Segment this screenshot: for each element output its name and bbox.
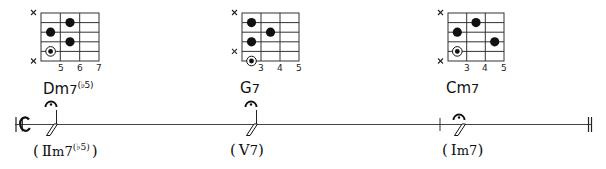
chord-root: G: [240, 79, 252, 97]
roman-suffix: m7: [457, 143, 478, 158]
roman-superscript: (♭5): [73, 142, 90, 152]
chord-root: Dm: [43, 80, 69, 98]
chord-root: Cm: [446, 79, 471, 97]
slash-notehead-icon: [455, 124, 466, 136]
staff: [15, 117, 592, 132]
chord-name-cm7: Cm7: [446, 81, 479, 96]
roman-numeral-i: (Ⅰm7): [442, 143, 483, 158]
chord-progression-diagram: 5 6 7 3 4 5 3 4 5 Dm7(♭5) G7 Cm7 (Ⅱm7(♭5…: [0, 0, 606, 169]
finger-dot-icon: [453, 28, 462, 37]
roman-degree: Ⅱ: [42, 142, 52, 160]
paren-open: (: [442, 141, 448, 159]
chord-suffix: 7: [252, 81, 260, 96]
mute-x-icon: [31, 10, 36, 15]
roman-suffix: m7: [52, 144, 73, 159]
chord-name-g7: G7: [240, 81, 260, 96]
paren-close: ): [258, 141, 264, 159]
fret-number: 4: [482, 64, 488, 73]
fret-number: 3: [258, 64, 264, 73]
chord-diagram-dm7b5: [31, 10, 99, 64]
chord-superscript: (♭5): [77, 80, 93, 90]
fret-number: 6: [77, 64, 83, 73]
mute-x-icon: [438, 59, 443, 64]
paren-open: (: [33, 142, 39, 160]
finger-dot-icon: [65, 37, 74, 46]
mute-x-icon: [232, 10, 237, 15]
mute-marks: [31, 10, 36, 64]
finger-dot-icon: [46, 28, 55, 37]
roman-suffix: 7: [250, 143, 258, 158]
fret-number: 3: [464, 64, 470, 73]
paren-open: (: [230, 141, 236, 159]
roman-degree: Ⅴ: [239, 141, 250, 159]
fret-number: 4: [277, 64, 283, 73]
root-note-icon: [247, 56, 257, 66]
paren-close: ): [92, 142, 98, 160]
roman-numeral-ii: (Ⅱm7(♭5)): [33, 143, 98, 159]
finger-dot-icon: [247, 18, 256, 27]
chord-suffix: 7: [471, 81, 479, 96]
finger-dot-icon: [490, 37, 499, 46]
fret-number: 5: [58, 64, 64, 73]
fret-number: 5: [501, 64, 507, 73]
finger-dot-icon: [471, 18, 480, 27]
fermata-icon: [46, 102, 57, 108]
finger-dot-icon: [266, 28, 275, 37]
mute-marks: [438, 10, 443, 64]
mute-x-icon: [31, 59, 36, 64]
mute-marks: [232, 10, 237, 54]
chord-name-dm7b5: Dm7(♭5): [43, 81, 93, 97]
mute-x-icon: [438, 10, 443, 15]
chord-diagram-cm7: [438, 10, 504, 64]
root-note-icon: [453, 47, 463, 57]
slash-notehead-icon: [247, 124, 258, 136]
fermata-icon: [246, 102, 257, 108]
paren-close: ): [477, 141, 483, 159]
finger-dot-icon: [247, 37, 256, 46]
fret-number: 7: [96, 64, 102, 73]
finger-dot-icon: [65, 18, 74, 27]
roman-numeral-v: (Ⅴ7): [230, 143, 264, 158]
beat-slash-1: [46, 102, 58, 136]
slash-notehead-icon: [47, 124, 58, 136]
root-note-icon: [46, 47, 56, 57]
fermata-icon: [454, 115, 465, 121]
beat-slash-2: [246, 102, 258, 136]
chord-diagram-g7: [232, 10, 299, 66]
fret-number: 5: [296, 64, 302, 73]
mute-x-icon: [232, 49, 237, 54]
